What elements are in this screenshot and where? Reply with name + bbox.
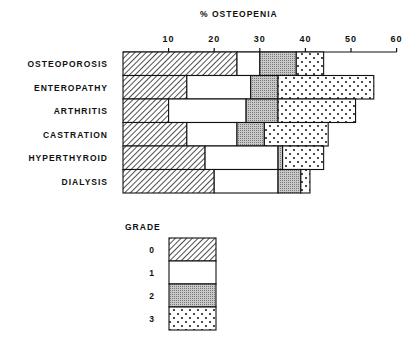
bar-segment-grade-3 — [296, 52, 323, 76]
bar-segment-grade-3 — [278, 76, 374, 100]
bar-segment-grade-0 — [123, 52, 237, 76]
bar-segment-grade-3 — [278, 99, 356, 123]
category-label: OSTEOPOROSIS — [28, 59, 109, 69]
legend-title: GRADE — [125, 222, 161, 232]
bar-segment-grade-0 — [123, 76, 187, 100]
legend-swatch-grade-3 — [169, 307, 216, 330]
legend-label: 3 — [149, 314, 155, 324]
bar-row-osteoporosis — [123, 52, 324, 76]
bar-segment-grade-3 — [283, 146, 324, 170]
bar-segment-grade-1 — [214, 170, 278, 194]
bar-segment-grade-3 — [301, 170, 310, 194]
bar-segment-grade-2 — [251, 76, 278, 100]
bar-segment-grade-2 — [246, 99, 278, 123]
tick-label: 60 — [391, 34, 403, 44]
legend-label: 1 — [149, 268, 155, 278]
legend-swatch-grade-0 — [169, 238, 216, 261]
bar-segment-grade-0 — [123, 146, 205, 170]
bar-segment-grade-3 — [264, 123, 328, 147]
tick-label: 20 — [208, 34, 220, 44]
bar-segment-grade-2 — [260, 52, 296, 76]
bar-segment-grade-1 — [205, 146, 278, 170]
category-label: DIALYSIS — [62, 177, 108, 187]
category-label: HYPERTHYROID — [28, 153, 108, 163]
category-label: CASTRATION — [43, 130, 108, 140]
tick-label: 40 — [299, 34, 311, 44]
bars — [123, 52, 374, 193]
bar-row-castration — [123, 123, 328, 147]
bar-row-enteropathy — [123, 76, 374, 100]
bar-row-hyperthyroid — [123, 146, 324, 170]
bar-segment-grade-1 — [169, 99, 247, 123]
x-axis: 102030405060 — [123, 34, 403, 52]
category-label: ARTHRITIS — [54, 106, 108, 116]
bar-segment-grade-0 — [123, 99, 169, 123]
legend-swatch-grade-2 — [169, 284, 216, 307]
bar-segment-grade-1 — [187, 123, 237, 147]
bar-segment-grade-2 — [278, 170, 301, 194]
bar-segment-grade-1 — [187, 76, 251, 100]
legend-label: 2 — [149, 291, 155, 301]
legend-label: 0 — [149, 245, 155, 255]
bar-segment-grade-0 — [123, 170, 214, 194]
category-label: ENTEROPATHY — [34, 83, 108, 93]
bar-row-dialysis — [123, 170, 310, 194]
bar-segment-grade-2 — [237, 123, 264, 147]
stacked-bar-chart: 102030405060 OSTEOPOROSISENTEROPATHYARTH… — [0, 0, 420, 345]
tick-label: 30 — [254, 34, 266, 44]
bar-segment-grade-1 — [237, 52, 260, 76]
bar-row-arthritis — [123, 99, 356, 123]
tick-label: 10 — [163, 34, 175, 44]
bar-segment-grade-0 — [123, 123, 187, 147]
legend-swatch-grade-1 — [169, 261, 216, 284]
tick-label: 50 — [345, 34, 357, 44]
category-labels: OSTEOPOROSISENTEROPATHYARTHRITISCASTRATI… — [28, 59, 109, 187]
legend: GRADE0123 — [125, 222, 216, 330]
bar-segment-grade-2 — [278, 146, 283, 170]
